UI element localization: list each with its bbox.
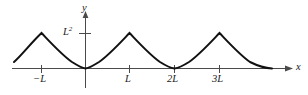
plot-svg [0,0,308,95]
y-value-label-exponent: 2 [69,25,73,33]
x-tick-label-L: L [125,74,131,85]
figure-container: y x L2 −L L 2L 3L [0,0,308,95]
y-value-label-L-squared: L2 [63,27,72,38]
x-tick-label-neg-L: −L [33,74,46,85]
x-axis [12,66,293,72]
x-axis-label: x [296,62,301,73]
waveform-curve [14,33,272,69]
y-axis [83,11,89,88]
x-axis-arrowhead [285,66,293,72]
x-tick-label-2L: 2L [167,74,178,85]
y-axis-label: y [82,3,87,14]
x-tick-label-3L: 3L [212,74,223,85]
